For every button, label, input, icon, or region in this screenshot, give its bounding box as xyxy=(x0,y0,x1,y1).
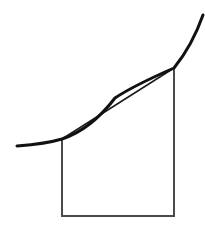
figure-canvas: Trapezoidal rule approximation diagram xyxy=(0,0,205,231)
trapezoidal-rule-figure: Trapezoidal rule approximation diagram xyxy=(0,0,205,231)
